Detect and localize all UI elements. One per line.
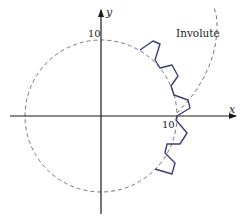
involute-diagram: y x 10 10 Involute	[0, 0, 245, 221]
involute-curve	[177, 8, 217, 113]
y-tick-label-10: 10	[88, 28, 101, 39]
x-axis-label: x	[229, 103, 236, 116]
y-axis-label: y	[105, 6, 113, 19]
involute-label: Involute	[176, 27, 220, 39]
x-tick-label-10: 10	[162, 119, 175, 130]
